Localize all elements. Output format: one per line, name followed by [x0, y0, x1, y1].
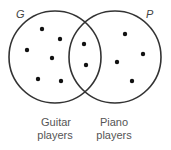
data-point-dot: [115, 60, 119, 64]
caption-guitar-line1: Guitar: [41, 116, 71, 128]
data-point-dot: [36, 77, 40, 81]
region-both-dots: [82, 42, 88, 67]
set-label-g: G: [16, 8, 25, 20]
data-point-dot: [50, 56, 54, 60]
region-guitar-only-dots: [25, 27, 63, 83]
data-point-dot: [84, 63, 88, 67]
caption-piano-line1: Piano: [100, 116, 128, 128]
region-piano-only-dots: [115, 32, 145, 83]
data-point-dot: [82, 42, 86, 46]
data-point-dot: [130, 79, 134, 83]
data-point-dot: [25, 48, 29, 52]
data-point-dot: [59, 79, 63, 83]
data-point-dot: [58, 37, 62, 41]
set-circle-piano: [69, 11, 161, 103]
caption-guitar-line2: players: [37, 129, 73, 141]
data-point-dot: [141, 52, 145, 56]
data-point-dot: [123, 32, 127, 36]
data-point-dot: [40, 27, 44, 31]
set-circle-guitar: [9, 11, 101, 103]
set-label-p: P: [146, 8, 154, 20]
caption-piano-line2: players: [96, 129, 132, 141]
venn-diagram: G P Guitar players Piano players: [0, 0, 171, 150]
